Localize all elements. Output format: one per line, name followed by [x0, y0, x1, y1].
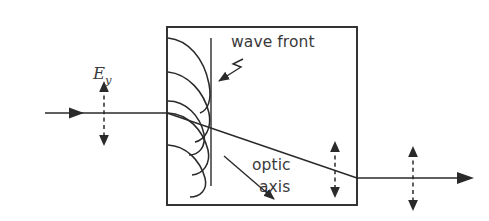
birefringence-diagram: E y wave front optic axis [0, 0, 489, 221]
optic-axis-label-line2: axis [259, 178, 290, 196]
field-label-subscript-y: y [104, 73, 112, 87]
polarization-mid-arrow-up [330, 141, 340, 152]
wavelet-4 [168, 145, 206, 197]
polarization-output-arrow-up [408, 146, 418, 157]
polarization-output-arrow-down [408, 200, 418, 211]
incident-ray-arrowhead [69, 108, 84, 119]
polarization-input-arrow-down [99, 135, 109, 146]
huygens-wavelets [168, 38, 210, 197]
wave-front-label: wave front [231, 33, 315, 51]
wavelet-3 [168, 113, 209, 175]
exit-ray-arrowhead [457, 172, 474, 184]
polarization-mid-arrow-down [330, 187, 340, 198]
field-label-E: E [92, 64, 105, 83]
wavelet-5 [168, 101, 204, 155]
wave-front-leader-arrow [219, 59, 243, 81]
figure-root: E y wave front optic axis [0, 0, 489, 221]
field-label-group: E y [92, 64, 112, 87]
optic-axis-label-line1: optic [252, 156, 291, 174]
